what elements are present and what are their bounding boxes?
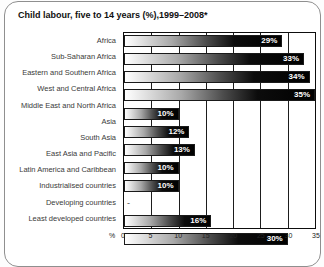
category-label: Middle East and North Africa <box>5 98 122 114</box>
category-label: Africa <box>5 33 122 49</box>
category-label: Least developed countries <box>5 211 122 227</box>
category-label: Industrialised countries <box>5 178 122 194</box>
category-label: Latin America and Caribbean <box>5 162 122 178</box>
x-axis: % 0 5 10 15 20 25 30 35 <box>123 232 316 242</box>
x-tick-label: 10 <box>174 232 182 239</box>
x-tick-label: 35 <box>312 232 320 239</box>
x-tick-label: 5 <box>149 232 153 239</box>
bar-row: 33% <box>124 53 315 69</box>
bar-value-label: 10% <box>158 181 178 191</box>
bar-row: 10% <box>124 162 315 178</box>
bar-row: - <box>124 196 315 212</box>
x-tick-label: 25 <box>257 232 265 239</box>
bar: 10% <box>124 108 179 120</box>
x-tick-label: 0 <box>121 232 125 239</box>
bar-value-label: 16% <box>190 216 210 226</box>
bar: 12% <box>124 126 189 138</box>
bar-value-label: 13% <box>174 145 194 155</box>
category-label: West and Central Africa <box>5 81 122 97</box>
chart-title: Child labour, five to 14 years (%),1999–… <box>18 10 208 20</box>
bar-row: 29% <box>124 35 315 51</box>
bar-row: 10% <box>124 108 315 124</box>
bar-value-label: 12% <box>168 127 188 137</box>
category-label: Developing countries <box>5 195 122 211</box>
category-label: Eastern and Southern Africa <box>5 65 122 81</box>
bar-value-label: 29% <box>261 36 281 46</box>
category-labels: Africa Sub-Saharan Africa Eastern and So… <box>5 33 122 227</box>
bar-row: 34% <box>124 71 315 87</box>
bar-row: 35% <box>124 89 315 105</box>
bar-row: 16% <box>124 215 315 231</box>
x-axis-unit: % <box>109 232 115 239</box>
bar: 13% <box>124 144 195 156</box>
bar: 33% <box>124 53 304 65</box>
bar-row: 12% <box>124 126 315 142</box>
bar: 35% <box>124 89 315 101</box>
x-tick-label: 15 <box>202 232 210 239</box>
bar: 10% <box>124 162 179 174</box>
category-label: Asia <box>5 114 122 130</box>
bar-row: 10% <box>124 180 315 196</box>
bar-value-label: 33% <box>283 54 303 64</box>
category-label: Sub-Saharan Africa <box>5 49 122 65</box>
category-label: East Asia and Pacific <box>5 146 122 162</box>
bar: 10% <box>124 180 179 192</box>
bar-value-label: 34% <box>289 72 309 82</box>
chart-card: Child labour, five to 14 years (%),1999–… <box>4 1 321 267</box>
bar: 34% <box>124 71 310 83</box>
bar-value-label: 35% <box>294 90 314 100</box>
bar: 29% <box>124 35 282 47</box>
no-data-dash: - <box>127 197 130 209</box>
bar-rows: 29% 33% 34% 35% 10% 12% 13% 10% <box>124 33 315 228</box>
x-tick-label: 20 <box>229 232 237 239</box>
x-tick-label: 30 <box>285 232 293 239</box>
bar-row: 13% <box>124 144 315 160</box>
bar-value-label: 10% <box>158 109 178 119</box>
bar: 16% <box>124 215 211 227</box>
bar-value-label: 10% <box>158 163 178 173</box>
plot-area: 29% 33% 34% 35% 10% 12% 13% 10% <box>123 32 316 229</box>
category-label: South Asia <box>5 130 122 146</box>
